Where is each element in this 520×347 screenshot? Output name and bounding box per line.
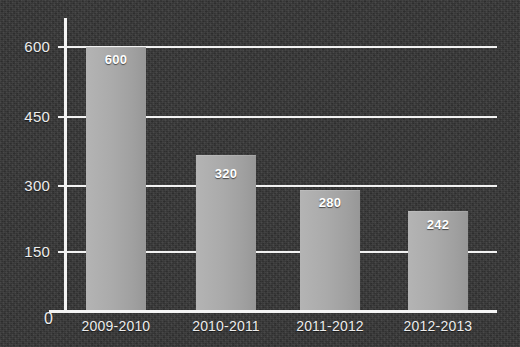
y-tick-600 xyxy=(58,46,67,48)
plot-area: 600 320 280 242 600 450 300 150 0 2009-2… xyxy=(0,0,520,347)
y-tick-label-600: 600 xyxy=(0,38,50,55)
y-tick-label-150: 150 xyxy=(0,243,50,260)
category-label-2011-2012: 2011-2012 xyxy=(280,318,380,334)
y-tick-150 xyxy=(58,251,67,253)
origin-label: 0 xyxy=(44,310,53,328)
y-tick-label-300: 300 xyxy=(0,177,50,194)
category-label-2009-2010: 2009-2010 xyxy=(66,318,166,334)
bar-value-2012-2013: 242 xyxy=(408,217,468,232)
y-tick-300 xyxy=(58,185,67,187)
y-tick-450 xyxy=(58,116,67,118)
category-label-2012-2013: 2012-2013 xyxy=(388,318,488,334)
y-axis-line xyxy=(64,18,67,313)
bar-value-2011-2012: 280 xyxy=(300,195,360,210)
bar-value-2009-2010: 600 xyxy=(86,52,146,67)
bar-2009-2010[interactable] xyxy=(86,47,146,311)
bar-chart: 600 320 280 242 600 450 300 150 0 2009-2… xyxy=(0,0,520,347)
x-axis-line xyxy=(49,310,497,313)
category-label-2010-2011: 2010-2011 xyxy=(176,318,276,334)
y-tick-label-450: 450 xyxy=(0,108,50,125)
bar-value-2010-2011: 320 xyxy=(196,166,256,181)
